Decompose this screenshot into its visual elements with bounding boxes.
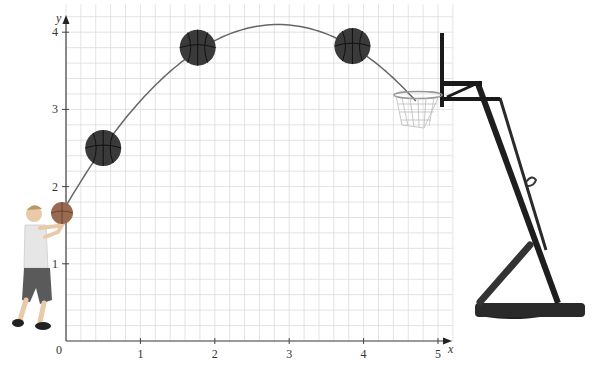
y-tick-label-2: 2 (52, 181, 58, 193)
figure-canvas (0, 0, 600, 370)
hoop-rim (394, 92, 442, 99)
grid (66, 4, 453, 341)
hoop-brace (480, 245, 530, 302)
y-tick-label-3: 3 (52, 103, 58, 115)
x-axis-label: x (448, 343, 453, 355)
basketballs (51, 28, 370, 224)
basketball-hoop (394, 33, 585, 319)
x-tick-label-2: 2 (212, 348, 218, 360)
basketball-in-hand-icon (51, 202, 73, 224)
y-tick-label-4: 4 (52, 26, 58, 38)
x-tick-label-1: 1 (137, 348, 143, 360)
hoop-net (396, 96, 439, 128)
y-axis-label: y (56, 12, 61, 24)
origin-label: 0 (56, 344, 62, 356)
basketball-icon (180, 30, 216, 66)
basketball-icon (85, 130, 121, 166)
basketball-icon (334, 28, 370, 64)
y-tick-label-1: 1 (52, 258, 58, 270)
child-shirt (24, 225, 48, 268)
trajectory-figure: 1234512340xy (0, 0, 600, 370)
hoop-pole (478, 84, 558, 303)
x-tick-label-3: 3 (286, 348, 292, 360)
y-axis-arrow-icon (63, 15, 70, 24)
x-tick-label-5: 5 (435, 348, 441, 360)
x-tick-label-4: 4 (361, 348, 367, 360)
